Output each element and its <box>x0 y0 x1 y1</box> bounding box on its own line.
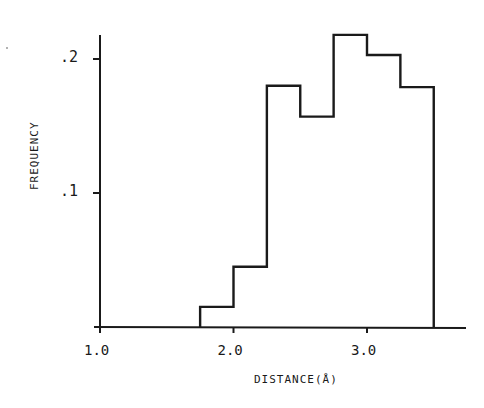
x-tick-label: 3.0 <box>351 342 376 358</box>
x-tick-label: 1.0 <box>84 342 109 358</box>
scan-speck <box>6 47 8 49</box>
y-tick-label: .2 <box>60 48 78 66</box>
x-axis-label: DISTANCE(Å) <box>254 373 338 386</box>
histogram-steps <box>200 35 434 327</box>
x-axis <box>94 327 466 328</box>
y-axis-label: FREQUENCY <box>28 121 41 190</box>
y-ticks <box>93 59 100 193</box>
x-tick-label: 2.0 <box>218 342 243 358</box>
axes <box>94 35 466 328</box>
y-tick-label: .1 <box>60 182 78 200</box>
